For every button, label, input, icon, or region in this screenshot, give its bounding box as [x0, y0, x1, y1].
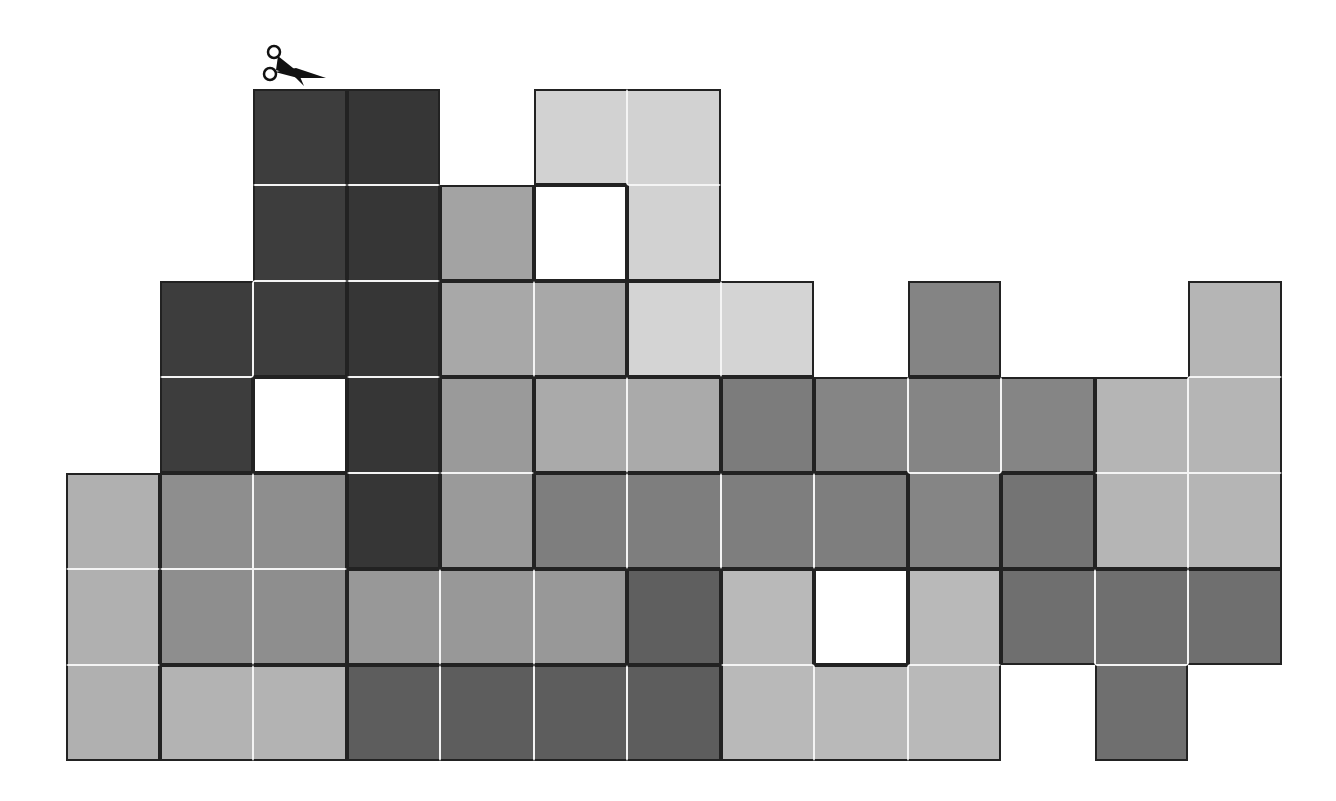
empty-slot[interactable]: [534, 185, 627, 281]
puzzle-cell[interactable]: [1188, 473, 1282, 569]
puzzle-cell[interactable]: [534, 473, 627, 569]
puzzle-cell[interactable]: [908, 281, 1001, 377]
puzzle-cell[interactable]: [627, 569, 721, 665]
puzzle-cell[interactable]: [253, 665, 347, 761]
puzzle-cell[interactable]: [440, 281, 534, 377]
empty-slot[interactable]: [814, 569, 908, 665]
puzzle-cell[interactable]: [908, 377, 1001, 473]
puzzle-cell[interactable]: [721, 569, 814, 665]
puzzle-cell[interactable]: [66, 473, 160, 569]
puzzle-cell[interactable]: [440, 377, 534, 473]
puzzle-cell[interactable]: [908, 665, 1001, 761]
puzzle-cell[interactable]: [627, 377, 721, 473]
puzzle-cell[interactable]: [440, 569, 534, 665]
scissors-icon[interactable]: [258, 42, 330, 90]
puzzle-cell[interactable]: [440, 473, 534, 569]
puzzle-cell[interactable]: [534, 569, 627, 665]
puzzle-cell[interactable]: [1095, 377, 1188, 473]
puzzle-cell[interactable]: [814, 473, 908, 569]
puzzle-cell[interactable]: [160, 569, 253, 665]
puzzle-cell[interactable]: [1188, 281, 1282, 377]
puzzle-cell[interactable]: [721, 665, 814, 761]
puzzle-cell[interactable]: [160, 377, 253, 473]
puzzle-cell[interactable]: [440, 185, 534, 281]
puzzle-cell[interactable]: [534, 377, 627, 473]
puzzle-board: [0, 0, 1336, 801]
puzzle-cell[interactable]: [1001, 377, 1095, 473]
puzzle-cell[interactable]: [627, 185, 721, 281]
puzzle-cell[interactable]: [347, 473, 440, 569]
puzzle-cell[interactable]: [347, 569, 440, 665]
puzzle-cell[interactable]: [160, 281, 253, 377]
puzzle-cell[interactable]: [814, 377, 908, 473]
puzzle-cell[interactable]: [1001, 569, 1095, 665]
puzzle-cell[interactable]: [1095, 473, 1188, 569]
puzzle-cell[interactable]: [1188, 569, 1282, 665]
puzzle-cell[interactable]: [1001, 473, 1095, 569]
puzzle-cell[interactable]: [253, 89, 347, 185]
puzzle-cell[interactable]: [627, 89, 721, 185]
puzzle-cell[interactable]: [721, 281, 814, 377]
puzzle-cell[interactable]: [534, 665, 627, 761]
puzzle-cell[interactable]: [908, 473, 1001, 569]
puzzle-cell[interactable]: [721, 473, 814, 569]
puzzle-cell[interactable]: [908, 569, 1001, 665]
puzzle-cell[interactable]: [1095, 569, 1188, 665]
puzzle-cell[interactable]: [253, 473, 347, 569]
puzzle-cell[interactable]: [253, 569, 347, 665]
puzzle-cell[interactable]: [160, 665, 253, 761]
puzzle-cell[interactable]: [1188, 377, 1282, 473]
puzzle-cell[interactable]: [66, 569, 160, 665]
puzzle-cell[interactable]: [627, 281, 721, 377]
puzzle-cell[interactable]: [347, 665, 440, 761]
puzzle-cell[interactable]: [347, 281, 440, 377]
puzzle-cell[interactable]: [721, 377, 814, 473]
puzzle-cell[interactable]: [627, 665, 721, 761]
puzzle-cell[interactable]: [627, 473, 721, 569]
puzzle-cell[interactable]: [1095, 665, 1188, 761]
empty-slot[interactable]: [253, 377, 347, 473]
puzzle-cell[interactable]: [160, 473, 253, 569]
puzzle-cell[interactable]: [347, 377, 440, 473]
puzzle-cell[interactable]: [534, 89, 627, 185]
puzzle-cell[interactable]: [66, 665, 160, 761]
puzzle-cell[interactable]: [253, 185, 347, 281]
puzzle-cell[interactable]: [347, 89, 440, 185]
puzzle-cell[interactable]: [440, 665, 534, 761]
puzzle-cell[interactable]: [253, 281, 347, 377]
puzzle-cell[interactable]: [347, 185, 440, 281]
puzzle-cell[interactable]: [534, 281, 627, 377]
puzzle-cell[interactable]: [814, 665, 908, 761]
